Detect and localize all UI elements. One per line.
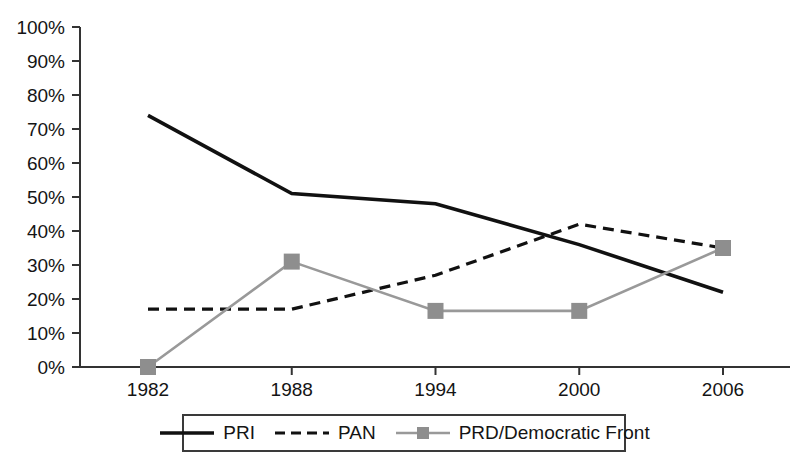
data-point-marker <box>428 303 444 319</box>
legend-label-pan: PAN <box>338 422 376 444</box>
x-axis-tick-label: 2006 <box>702 379 744 400</box>
series-line-pri <box>148 115 723 292</box>
chart-legend: PRI PAN PRD/Democratic Front <box>182 414 626 452</box>
legend-swatch-dashed-line-icon <box>273 426 331 440</box>
legend-swatch-solid-line-icon <box>158 426 216 440</box>
x-axis-tick-label: 1982 <box>127 379 169 400</box>
data-point-marker <box>715 240 731 256</box>
series-line-pan <box>148 224 723 309</box>
y-axis-tick-label: 30% <box>27 255 65 276</box>
legend-label-prd: PRD/Democratic Front <box>459 422 650 444</box>
y-axis-tick-label: 40% <box>27 221 65 242</box>
legend-entry-pri: PRI <box>149 422 264 444</box>
legend-label-pri: PRI <box>223 422 255 444</box>
data-point-marker <box>571 303 587 319</box>
line-chart: 0%10%20%30%40%50%60%70%80%90%100%1982198… <box>0 0 808 466</box>
chart-plot-area: 0%10%20%30%40%50%60%70%80%90%100%1982198… <box>0 0 808 466</box>
legend-entry-prd: PRD/Democratic Front <box>385 422 659 444</box>
y-axis-tick-label: 50% <box>27 187 65 208</box>
data-point-marker <box>284 254 300 270</box>
y-axis-tick-label: 60% <box>27 153 65 174</box>
x-axis-tick-label: 2000 <box>558 379 600 400</box>
y-axis-tick-label: 70% <box>27 119 65 140</box>
y-axis-tick-label: 0% <box>38 357 66 378</box>
legend-entry-pan: PAN <box>264 422 385 444</box>
y-axis-tick-label: 100% <box>16 17 65 38</box>
x-axis-tick-label: 1988 <box>271 379 313 400</box>
y-axis-tick-label: 10% <box>27 323 65 344</box>
y-axis-tick-label: 90% <box>27 51 65 72</box>
x-axis-tick-label: 1994 <box>414 379 457 400</box>
data-point-marker <box>140 359 156 375</box>
y-axis-tick-label: 20% <box>27 289 65 310</box>
y-axis-tick-label: 80% <box>27 85 65 106</box>
legend-swatch-square-marker-line-icon <box>394 425 452 441</box>
